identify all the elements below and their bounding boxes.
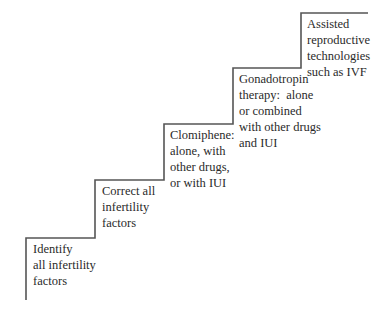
step-5-line-1: Assisted [307, 16, 370, 32]
step-4-line-5: and IUI [239, 135, 321, 151]
step-5-line-3: technologies [307, 48, 370, 64]
step-3-line-1: Clomiphene: [170, 127, 235, 143]
step-2-label: Correct all infertility factors [102, 183, 155, 231]
step-3-line-2: alone, with [170, 143, 235, 159]
step-2-line-2: infertility [102, 199, 155, 215]
step-4-label: Gonadotropin therapy: alone or combined … [239, 71, 321, 151]
step-5-line-4: such as IVF [307, 64, 370, 80]
step-3-line-3: other drugs, [170, 159, 235, 175]
step-1-label: Identify all infertility factors [33, 241, 96, 289]
step-1-line-3: factors [33, 273, 96, 289]
step-3-line-4: or with IUI [170, 175, 235, 191]
step-4-line-2: therapy: alone [239, 87, 321, 103]
step-2-line-1: Correct all [102, 183, 155, 199]
step-4-line-4: with other drugs [239, 119, 321, 135]
step-3-label: Clomiphene: alone, with other drugs, or … [170, 127, 235, 191]
step-5-label: Assisted reproductive technologies such … [307, 16, 370, 80]
step-5-line-2: reproductive [307, 32, 370, 48]
step-2-line-3: factors [102, 215, 155, 231]
step-1-line-2: all infertility [33, 257, 96, 273]
step-4-line-3: or combined [239, 103, 321, 119]
step-1-line-1: Identify [33, 241, 96, 257]
